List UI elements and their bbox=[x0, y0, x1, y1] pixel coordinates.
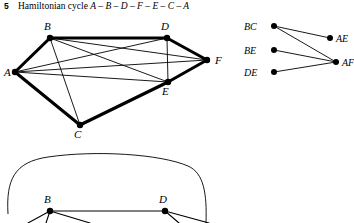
vertex-label-c: C bbox=[74, 128, 82, 140]
bottom-graph-figure: BD bbox=[0, 152, 236, 223]
bipartite-vertex-de bbox=[271, 69, 277, 75]
main-graph-vertices bbox=[12, 35, 210, 128]
bottom-graph-vertex-labels: BD bbox=[44, 193, 167, 205]
bottom-vertex-label-d: D bbox=[158, 193, 167, 205]
vertex-label-a: A bbox=[3, 66, 11, 78]
bipartite-edge-de-af bbox=[274, 62, 336, 72]
bipartite-edge-bc-ae bbox=[274, 26, 330, 38]
chord-edge-b-f bbox=[50, 38, 207, 60]
bottom-vertex-b bbox=[47, 208, 53, 214]
vertex-b bbox=[47, 35, 53, 41]
vertex-label-d: D bbox=[160, 20, 169, 32]
bipartite-edge-be-af bbox=[274, 50, 336, 62]
bipartite-edge-bc-af bbox=[274, 26, 336, 62]
statement-cycle: A – B – D – F – E – C – A bbox=[90, 1, 189, 11]
bottom-graph-svg: BD bbox=[0, 152, 236, 223]
cycle-edge-d-f bbox=[167, 38, 207, 60]
chord-edge-d-e bbox=[167, 38, 168, 82]
bipartite-vertex-be bbox=[271, 47, 277, 53]
vertex-label-f: F bbox=[214, 54, 222, 66]
bottom-graph-partial-edges bbox=[28, 211, 209, 223]
cycle-edge-e-c bbox=[80, 82, 168, 125]
bottom-partial-edge-b-3 bbox=[50, 211, 90, 223]
bipartite-vertex-bc bbox=[271, 23, 277, 29]
cycle-edge-f-e bbox=[168, 60, 207, 82]
bottom-vertex-d bbox=[162, 208, 168, 214]
vertex-label-b: B bbox=[44, 20, 51, 32]
exercise-number: 5 bbox=[4, 0, 16, 12]
main-graph-cycle-edges bbox=[15, 38, 207, 125]
bipartite-label-be: BE bbox=[244, 45, 256, 56]
vertex-a bbox=[12, 69, 18, 75]
bipartite-label-ae: AE bbox=[335, 33, 348, 44]
bipartite-label-bc: BC bbox=[244, 21, 257, 32]
bottom-vertex-label-b: B bbox=[44, 193, 51, 205]
bipartite-vertex-ae bbox=[327, 35, 333, 41]
main-graph-figure: ABCDEF bbox=[0, 16, 236, 150]
bottom-graph-outline bbox=[8, 154, 206, 223]
bipartite-edges bbox=[274, 26, 336, 72]
cycle-edge-a-b bbox=[15, 38, 50, 72]
vertex-f bbox=[204, 57, 210, 63]
statement-prefix: Hamiltonian cycle bbox=[18, 1, 90, 11]
main-graph-chord-edges bbox=[15, 38, 207, 125]
bipartite-graph-figure: BCBEDEAEAF bbox=[236, 14, 354, 90]
vertex-d bbox=[164, 35, 170, 41]
bipartite-graph-svg: BCBEDEAEAF bbox=[236, 14, 354, 90]
main-graph-svg: ABCDEF bbox=[0, 16, 236, 150]
bipartite-label-de: DE bbox=[243, 67, 257, 78]
bipartite-vertex-af bbox=[333, 59, 339, 65]
cycle-edge-c-a bbox=[15, 72, 80, 125]
vertex-label-e: E bbox=[161, 85, 169, 97]
bipartite-vertex-labels: BCBEDEAEAF bbox=[243, 21, 354, 78]
bipartite-label-af: AF bbox=[341, 57, 354, 68]
exercise-statement: Hamiltonian cycle A – B – D – F – E – C … bbox=[18, 0, 189, 12]
